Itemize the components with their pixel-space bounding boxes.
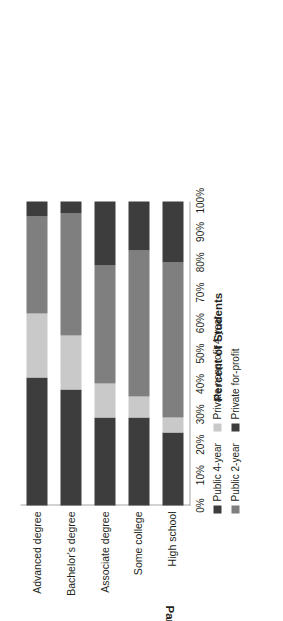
bar-segment xyxy=(162,432,183,505)
table-row xyxy=(162,201,183,505)
legend-item[interactable]: Public 4-year xyxy=(211,443,222,513)
tick-label-80: 80% xyxy=(194,250,205,274)
table-row xyxy=(26,201,47,505)
legend-item[interactable]: Private nonprofit 4-year xyxy=(211,315,222,431)
tick-label-60: 60% xyxy=(194,311,205,335)
legend-label: Public 2-year xyxy=(229,443,240,501)
bar-segment xyxy=(60,201,81,213)
tick-label-10: 10% xyxy=(194,463,205,487)
legend-swatch-icon xyxy=(213,505,221,513)
tick-label-70: 70% xyxy=(194,280,205,304)
legend-label: Public 4-year xyxy=(211,443,222,501)
bar-segment xyxy=(128,201,149,250)
tick-label-50: 50% xyxy=(194,341,205,365)
category-label-bachelors-degree: Bachelor's degree xyxy=(64,511,76,615)
bar-segment xyxy=(94,383,115,416)
tick-label-40: 40% xyxy=(194,371,205,395)
bar-segment xyxy=(162,262,183,417)
legend-label: Private nonprofit 4-year xyxy=(211,315,222,419)
tick-label-20: 20% xyxy=(194,432,205,456)
table-row xyxy=(60,201,81,505)
tick-label-0: 0% xyxy=(194,493,205,517)
bar-segment xyxy=(94,417,115,505)
bar-segment xyxy=(60,335,81,390)
legend-item[interactable]: Private for-profit xyxy=(229,348,240,431)
bar-segment xyxy=(60,213,81,335)
bar-segment xyxy=(26,314,47,378)
table-row xyxy=(128,201,149,505)
tick-label-90: 90% xyxy=(194,219,205,243)
category-label-associate-degree: Associate degree xyxy=(98,511,110,615)
legend-item[interactable]: Public 2-year xyxy=(229,443,240,513)
legend-swatch-icon xyxy=(213,423,221,431)
bar-segment xyxy=(128,396,149,417)
bar-segment xyxy=(94,265,115,384)
category-label-some-college: Some college xyxy=(131,511,143,615)
bar-segment xyxy=(60,389,81,505)
category-axis-title: Parents' Highest Education Level xyxy=(163,605,175,621)
tick-label-100: 100% xyxy=(194,189,205,213)
tick-label-30: 30% xyxy=(194,402,205,426)
bar-segment xyxy=(162,417,183,432)
bar-segment xyxy=(26,201,47,216)
legend-swatch-icon xyxy=(231,505,239,513)
bar-segment xyxy=(128,250,149,396)
category-label-high-school: High school xyxy=(165,511,177,615)
category-axis-line xyxy=(189,201,190,505)
bar-segment xyxy=(26,216,47,313)
category-label-advanced-degree: Advanced degree xyxy=(30,511,42,615)
legend-label: Private for-profit xyxy=(229,348,240,419)
bar-segment xyxy=(94,201,115,265)
table-row xyxy=(94,201,115,505)
bar-segment xyxy=(128,417,149,505)
bar-segment xyxy=(162,201,183,262)
chart-legend: Public 4-yearPrivate nonprofit 4-yearPub… xyxy=(211,0,251,621)
bar-segment xyxy=(26,377,47,505)
plot-area: 0% 10% 20% 30% 40% 50% 60% 70% 80% 90% 1… xyxy=(0,0,283,621)
chart-figure: 0% 10% 20% 30% 40% 50% 60% 70% 80% 90% 1… xyxy=(0,0,283,621)
legend-swatch-icon xyxy=(231,423,239,431)
